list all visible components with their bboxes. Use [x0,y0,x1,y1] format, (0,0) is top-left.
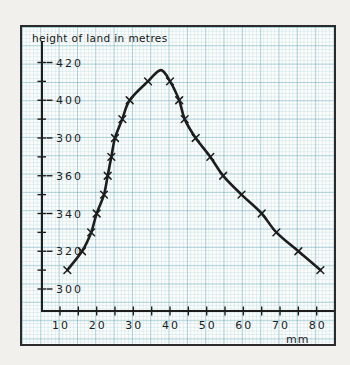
svg-text:mm: mm [286,333,309,344]
svg-text:360: 360 [56,170,83,183]
svg-text:300: 300 [56,283,83,296]
svg-text:340: 340 [56,208,83,221]
chart-canvas: 4204003003603403203001020304050607080mm [22,27,334,344]
graph-paper-frame: height of land in metres 420400300360340… [20,25,336,346]
svg-text:10: 10 [52,319,70,332]
svg-text:420: 420 [56,57,83,70]
svg-text:40: 40 [162,319,180,332]
svg-text:300: 300 [56,132,83,145]
svg-text:400: 400 [56,94,83,107]
svg-text:80: 80 [309,319,327,332]
svg-text:20: 20 [89,319,107,332]
svg-text:60: 60 [235,319,253,332]
svg-text:50: 50 [199,319,217,332]
svg-text:70: 70 [272,319,290,332]
svg-text:30: 30 [125,319,143,332]
